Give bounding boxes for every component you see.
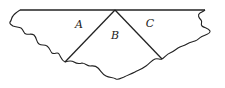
region-label-a: A <box>75 19 83 30</box>
bottom-wavy-boundary <box>65 59 162 80</box>
divider-a-b <box>65 10 115 62</box>
diagram-canvas <box>0 0 225 88</box>
region-label-b: B <box>111 30 119 41</box>
left-wavy-boundary <box>10 10 65 62</box>
divider-b-c <box>115 10 162 59</box>
region-diagram: A B C <box>0 0 225 88</box>
right-wavy-boundary <box>162 10 210 59</box>
region-label-c: C <box>146 18 154 29</box>
